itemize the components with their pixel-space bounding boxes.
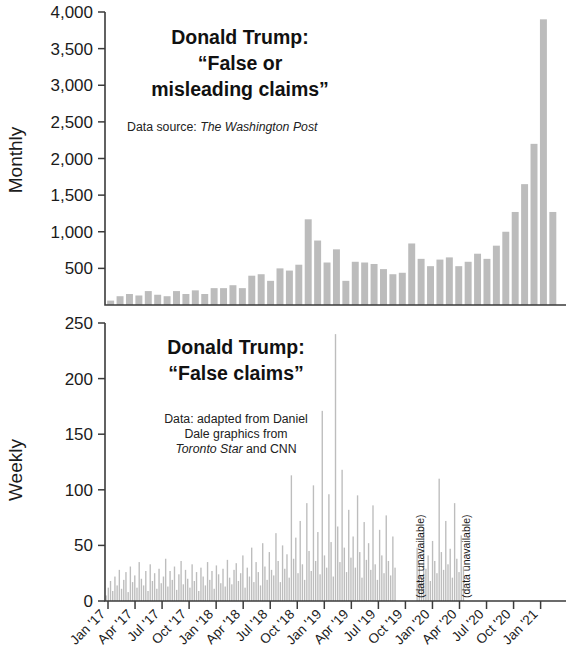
- monthly-bar: [164, 296, 171, 305]
- weekly-bar: [368, 543, 369, 601]
- weekly-bar: [145, 571, 146, 601]
- monthly-bar: [474, 254, 481, 305]
- weekly-bar: [346, 572, 347, 601]
- weekly-bar: [253, 582, 254, 601]
- weekly-bar: [174, 567, 175, 601]
- weekly-bar: [136, 588, 137, 601]
- weekly-bar: [130, 567, 131, 601]
- monthly-bar: [352, 262, 359, 305]
- weekly-bar: [436, 573, 437, 601]
- weekly-bar: [432, 541, 433, 601]
- monthly-bar: [436, 260, 443, 305]
- weekly-bar: [388, 561, 389, 601]
- monthly-bar: [154, 295, 161, 305]
- monthly-bar: [239, 288, 246, 305]
- monthly-bar: [427, 266, 434, 305]
- weekly-bar: [339, 562, 340, 601]
- weekly-bar: [260, 585, 261, 601]
- monthly-bar: [117, 296, 124, 305]
- monthly-bar: [540, 19, 547, 305]
- weekly-bar: [205, 585, 206, 601]
- weekly-bar: [172, 580, 173, 601]
- weekly-bar: [330, 542, 331, 601]
- weekly-bar: [196, 572, 197, 601]
- weekly-bar: [231, 584, 232, 601]
- weekly-bar: [438, 479, 439, 601]
- weekly-bar: [156, 589, 157, 601]
- weekly-bar: [284, 569, 285, 601]
- y-tick-label: 200: [65, 370, 93, 389]
- monthly-bar: [248, 276, 255, 305]
- monthly-bar: [211, 288, 218, 305]
- bottom-panel-y-axis-title: Weekly: [5, 439, 26, 501]
- two-panel-bar-chart: 5001,0001,5002,0002,5003,0003,5004,000 M…: [0, 0, 572, 667]
- y-tick-label: 50: [74, 536, 93, 555]
- monthly-bar: [549, 212, 556, 305]
- weekly-bar: [456, 559, 457, 601]
- weekly-bar: [154, 573, 155, 601]
- weekly-bar: [383, 573, 384, 601]
- y-tick-label: 100: [65, 481, 93, 500]
- weekly-bar: [132, 582, 133, 601]
- weekly-bar: [139, 562, 140, 601]
- weekly-bar: [366, 560, 367, 601]
- weekly-bar: [370, 570, 371, 601]
- bottom-panel-source-line1: Data: adapted from Daniel: [164, 412, 308, 426]
- weekly-bar: [125, 572, 126, 601]
- y-tick-label: 0: [84, 592, 93, 611]
- weekly-bar: [218, 574, 219, 601]
- weekly-bar: [269, 552, 270, 601]
- weekly-bar: [357, 495, 358, 601]
- weekly-bar: [392, 537, 393, 602]
- weekly-bar: [359, 552, 360, 601]
- weekly-bar: [229, 578, 230, 601]
- weekly-bar: [207, 562, 208, 601]
- weekly-bar: [306, 503, 307, 601]
- weekly-bar: [313, 485, 314, 601]
- weekly-bar: [183, 584, 184, 601]
- weekly-bar: [377, 580, 378, 601]
- weekly-bar: [220, 583, 221, 601]
- weekly-bar: [251, 548, 252, 601]
- weekly-bar: [266, 580, 267, 601]
- weekly-bar: [452, 578, 453, 601]
- weekly-bar: [344, 548, 345, 601]
- monthly-bar: [333, 249, 340, 305]
- weekly-bar: [386, 515, 387, 601]
- weekly-bar: [308, 551, 309, 601]
- weekly-bar: [143, 585, 144, 601]
- bottom-panel-title-line1: Donald Trump:: [167, 336, 305, 358]
- y-tick-label: 150: [65, 425, 93, 444]
- monthly-bar: [324, 263, 331, 305]
- weekly-bar: [273, 575, 274, 601]
- weekly-bar: [447, 564, 448, 601]
- y-tick-label: 4,000: [50, 3, 93, 22]
- weekly-bar: [275, 533, 276, 601]
- weekly-bar: [282, 545, 283, 601]
- weekly-bar: [286, 554, 287, 601]
- top-panel-title-line1: Donald Trump:: [171, 26, 309, 48]
- monthly-bar: [361, 263, 368, 305]
- monthly-bar: [502, 232, 509, 305]
- weekly-bar: [337, 527, 338, 602]
- monthly-bar: [277, 268, 284, 305]
- monthly-bar: [342, 281, 349, 305]
- weekly-bar: [335, 334, 336, 601]
- monthly-bar: [521, 184, 528, 305]
- monthly-bar: [220, 288, 227, 305]
- weekly-bar: [110, 581, 111, 601]
- weekly-bar: [247, 568, 248, 601]
- weekly-bar: [211, 571, 212, 601]
- weekly-bar: [434, 561, 435, 601]
- weekly-bar: [271, 570, 272, 601]
- weekly-bar: [311, 571, 312, 601]
- weekly-bar: [326, 568, 327, 601]
- weekly-bar: [244, 588, 245, 601]
- monthly-bar: [258, 274, 265, 305]
- top-panel-source-prefix: Data source:: [127, 120, 200, 134]
- weekly-bar: [324, 555, 325, 601]
- weekly-bar: [189, 588, 190, 601]
- weekly-bar: [350, 558, 351, 601]
- weekly-bar: [127, 592, 128, 601]
- weekly-bar: [372, 505, 373, 601]
